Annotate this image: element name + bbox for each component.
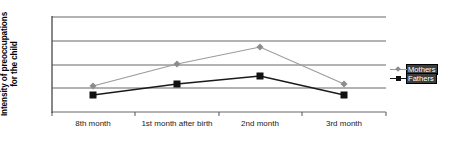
chart-legend: Mothers Fathers	[390, 64, 454, 86]
chart-figure: Intensity of preoccupations for the chil…	[0, 0, 456, 147]
series-mothers	[89, 43, 347, 89]
series-fathers-line	[93, 76, 344, 95]
marker-fathers-1	[174, 81, 181, 88]
x-tick-label-3: 3rd month	[326, 119, 362, 128]
x-tick-label-2: 2nd month	[241, 119, 279, 128]
x-tick-label-0: 8th month	[75, 119, 111, 128]
plot-area	[0, 0, 456, 147]
marker-mothers-1	[173, 60, 180, 67]
legend-marker-fathers-icon	[390, 74, 407, 83]
x-tick-label-1: 1st month after birth	[141, 119, 212, 128]
legend-item-fathers: Fathers	[390, 73, 437, 83]
gridlines	[52, 17, 386, 112]
x-axis-ticks	[52, 112, 386, 116]
marker-fathers-2	[257, 73, 264, 80]
marker-fathers-0	[90, 92, 97, 99]
marker-mothers-2	[256, 43, 263, 50]
marker-mothers-3	[340, 80, 347, 87]
legend-label-fathers: Fathers	[406, 73, 437, 84]
marker-fathers-3	[341, 92, 348, 99]
